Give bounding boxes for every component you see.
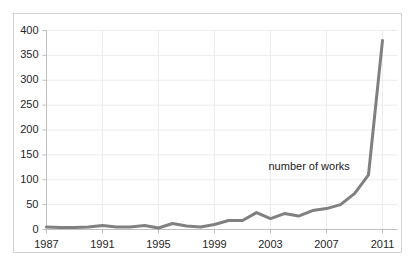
line-chart-plot [0, 0, 420, 273]
x-tick-label: 2011 [363, 239, 403, 250]
y-tick-label: 200 [9, 124, 39, 135]
y-tick-label: 350 [9, 49, 39, 60]
x-tick-label: 1987 [27, 239, 67, 250]
y-tick-label: 0 [9, 224, 39, 235]
x-tick-label: 1999 [195, 239, 235, 250]
y-tick-label: 400 [9, 25, 39, 36]
x-tick-label: 1991 [83, 239, 123, 250]
y-tick-label: 300 [9, 74, 39, 85]
y-tick-label: 150 [9, 149, 39, 160]
axis-ticks [43, 31, 383, 234]
series-annotation-label: number of works [269, 161, 350, 172]
x-tick-label: 2007 [307, 239, 347, 250]
gridlines-horizontal [47, 31, 398, 205]
y-tick-label: 250 [9, 99, 39, 110]
x-tick-label: 2003 [251, 239, 291, 250]
x-tick-label: 1995 [139, 239, 179, 250]
y-tick-label: 100 [9, 174, 39, 185]
y-tick-label: 50 [9, 199, 39, 210]
